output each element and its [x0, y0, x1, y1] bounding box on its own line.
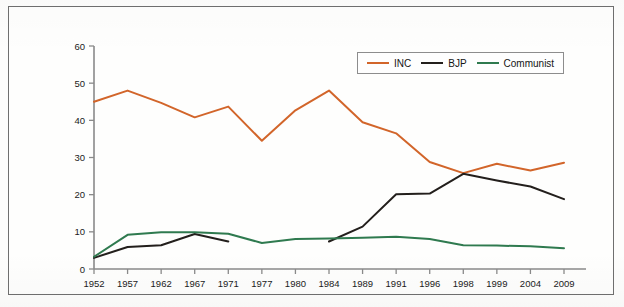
x-tick-label: 1967 — [184, 278, 205, 289]
series-line-inc — [94, 91, 564, 174]
x-tick-label: 1971 — [218, 278, 239, 289]
series-lines — [94, 91, 564, 258]
y-tick-label: 10 — [74, 226, 85, 237]
x-tick-label: 1952 — [83, 278, 104, 289]
series-line-bjp — [329, 174, 564, 242]
chart-frame: 0102030405060 19521957196219671971197719… — [8, 6, 614, 295]
legend-swatch-icon — [367, 62, 389, 64]
x-axis: 1952195719621967197119771980198419891991… — [83, 269, 586, 289]
y-tick-label: 40 — [74, 115, 85, 126]
chart-legend: INCBJPCommunist — [357, 52, 564, 74]
x-tick-label: 1980 — [285, 278, 306, 289]
x-tick-label: 1998 — [453, 278, 474, 289]
legend-label: INC — [394, 58, 411, 69]
legend-label: BJP — [448, 58, 466, 69]
y-tick-label: 20 — [74, 189, 85, 200]
x-tick-label: 1962 — [151, 278, 172, 289]
y-tick-label: 60 — [74, 41, 85, 52]
legend-swatch-icon — [477, 62, 499, 64]
chart-figure: 0102030405060 19521957196219671971197719… — [0, 0, 624, 307]
legend-label: Communist — [504, 58, 555, 69]
x-tick-label: 2009 — [553, 278, 574, 289]
y-tick-label: 30 — [74, 152, 85, 163]
legend-swatch-icon — [421, 62, 443, 64]
legend-entry-inc[interactable]: INC — [367, 58, 411, 69]
y-tick-label: 0 — [80, 264, 85, 275]
x-tick-label: 1999 — [486, 278, 507, 289]
line-chart-plot: 0102030405060 19521957196219671971197719… — [9, 7, 615, 296]
x-tick-label: 1977 — [251, 278, 272, 289]
x-tick-label: 1957 — [117, 278, 138, 289]
x-tick-label: 1996 — [419, 278, 440, 289]
x-tick-label: 1989 — [352, 278, 373, 289]
x-tick-label: 1991 — [386, 278, 407, 289]
legend-entry-communist[interactable]: Communist — [477, 58, 555, 69]
series-line-bjp — [94, 234, 228, 258]
y-tick-label: 50 — [74, 78, 85, 89]
x-tick-label: 2004 — [520, 278, 541, 289]
x-tick-label: 1984 — [318, 278, 339, 289]
legend-entry-bjp[interactable]: BJP — [421, 58, 466, 69]
y-axis: 0102030405060 — [74, 41, 94, 275]
